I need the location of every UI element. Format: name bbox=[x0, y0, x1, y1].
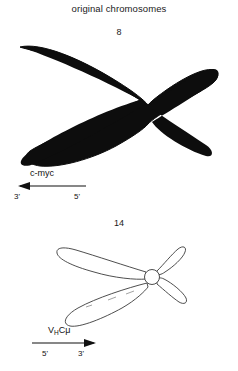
chromosome-14-shape bbox=[57, 247, 187, 326]
chromosome-number-8: 8 bbox=[0, 27, 238, 37]
gene-label-vhcmu: VHCμ 5' 3' bbox=[0, 325, 130, 367]
c-myc-right-end-label: 5' bbox=[74, 192, 80, 201]
chromosome-figure: original chromosomes 8 14 c-myc 3' 5' bbox=[0, 0, 238, 371]
c-myc-left-end-label: 3' bbox=[14, 192, 20, 201]
figure-title: original chromosomes bbox=[0, 3, 238, 14]
gene-name-vhcmu-greek: μ bbox=[65, 325, 70, 335]
chromosome-8-shape bbox=[20, 46, 219, 166]
vhcmu-left-end-label: 5' bbox=[42, 349, 48, 358]
gene-label-c-myc: c-myc 3' 5' bbox=[0, 168, 120, 210]
gene-name-c-myc: c-myc bbox=[30, 168, 54, 178]
chromosome-number-14: 14 bbox=[0, 218, 238, 228]
gene-direction-arrow-right bbox=[0, 336, 130, 350]
gene-name-vhcmu: VHCμ bbox=[48, 325, 70, 336]
vhcmu-right-end-label: 3' bbox=[78, 349, 84, 358]
gene-direction-arrow-left bbox=[0, 179, 130, 193]
